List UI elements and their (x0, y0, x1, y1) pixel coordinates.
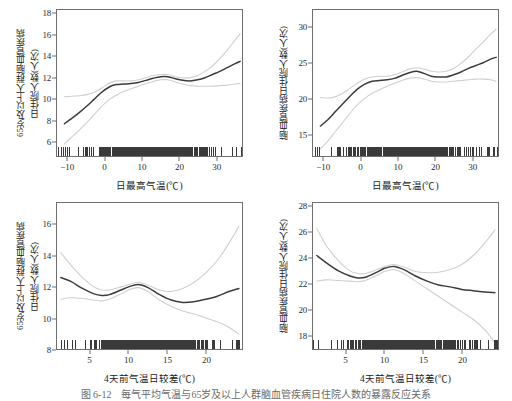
rug-tick (488, 340, 489, 349)
rug-tick (127, 340, 128, 349)
rug-tick (96, 340, 97, 349)
rug-tick (429, 340, 430, 349)
rug-tick (457, 147, 458, 156)
rug-tick (238, 340, 239, 349)
y-axis-label-line1: 65岁及以上人群脑血管疾病 (13, 29, 26, 137)
x-tick-label: 10 (380, 355, 389, 365)
rug-tick (162, 147, 163, 156)
rug-tick (352, 340, 353, 349)
rug-tick (61, 340, 62, 349)
plot-box (312, 9, 499, 157)
rug-tick (373, 340, 374, 349)
rug-tick (398, 147, 399, 156)
x-tick-label: 20 (175, 162, 184, 172)
rug-tick (137, 147, 138, 156)
rug-tick (402, 340, 403, 349)
y-tick-mark (52, 318, 56, 319)
rug-tick (214, 340, 215, 349)
rug-tick (498, 340, 499, 349)
rug-tick (72, 340, 73, 349)
x-tick-mark (206, 350, 207, 354)
rug-tick (129, 340, 130, 349)
rug-tick (469, 340, 470, 349)
rug-tick (164, 340, 165, 349)
rug-tick (61, 147, 62, 156)
rug-tick (367, 147, 368, 156)
rug-tick (200, 147, 201, 156)
panel-bottom-right: 脑血管疾病日住院人数(人次) 182022242628 5101520 4天前气… (256, 193, 512, 386)
x-tick-mark (89, 350, 90, 354)
rug-tick (404, 147, 405, 156)
rug-tick (160, 340, 161, 349)
rug-tick (104, 147, 105, 156)
rug-tick (451, 340, 452, 349)
rug-tick (65, 147, 66, 156)
rug-tick (205, 147, 206, 156)
y-tick-mark (52, 141, 56, 142)
figure-caption: 图 6-12 每气平均气温与65岁及以上人群脑血管疾病日住院人数的暴露反应关系 (0, 386, 512, 401)
rug-tick (174, 340, 175, 349)
y-tick-mark (52, 120, 56, 121)
rug-tick (459, 147, 460, 156)
rug-tick (360, 340, 361, 349)
rug-tick (465, 340, 466, 349)
rug-tick (144, 147, 145, 156)
rug-tick (204, 147, 205, 156)
x-tick-mark (167, 350, 168, 354)
rug-tick (75, 340, 76, 349)
rug-tick (64, 340, 65, 349)
rug-tick (437, 340, 438, 349)
rug-tick (331, 147, 332, 156)
rug-tick (355, 147, 356, 156)
x-tick-mark (67, 157, 68, 161)
rug-tick (380, 340, 381, 349)
rug-tick (313, 340, 314, 349)
x-tick-label: −10 (60, 162, 74, 172)
rug-tick (315, 147, 316, 156)
x-tick-mark (104, 157, 105, 161)
rug-tick (122, 340, 123, 349)
rug-tick (356, 340, 357, 349)
rug-tick (414, 340, 415, 349)
rug-tick (85, 147, 86, 156)
rug-tick (412, 340, 413, 349)
rug-tick (186, 340, 187, 349)
y-tick-mark (52, 350, 56, 351)
rug-tick (148, 340, 149, 349)
rug-tick (340, 147, 341, 156)
rug-tick (69, 147, 70, 156)
rug-tick (90, 340, 91, 349)
rug-tick (236, 340, 237, 349)
x-axis-label-bottom-left: 4天前气温日较差(℃) (56, 371, 243, 385)
y-tick-mark (308, 231, 312, 232)
rug-tick (105, 147, 106, 156)
rug-tick (360, 147, 361, 156)
y-tick-mark (52, 34, 56, 35)
y-tick-mark (308, 135, 312, 136)
rug-tick (203, 340, 204, 349)
rug-tick (357, 147, 358, 156)
rug-tick (126, 340, 127, 349)
x-axis-label-top-right: 日最高气温(℃) (312, 178, 499, 192)
rug-tick (375, 340, 376, 349)
rug-tick (439, 147, 440, 156)
rug-tick (122, 147, 123, 156)
plot-area-top-right: 15202530 −100102030 (312, 9, 499, 157)
rug-tick (362, 147, 363, 156)
rug-tick (220, 340, 221, 349)
rug-tick (116, 147, 117, 156)
rug-tick (375, 147, 376, 156)
x-tick-mark (128, 350, 129, 354)
rug-tick (443, 340, 444, 349)
rug-tick (124, 147, 125, 156)
rug-tick (115, 147, 116, 156)
rug-tick (185, 340, 186, 349)
rug-tick (455, 147, 456, 156)
rug-tick (446, 340, 447, 349)
rug-tick (172, 147, 173, 156)
plot-box (56, 202, 243, 350)
rug-tick (430, 147, 431, 156)
rug-tick (180, 340, 181, 349)
rug-tick (400, 340, 401, 349)
rug-tick (142, 147, 143, 156)
